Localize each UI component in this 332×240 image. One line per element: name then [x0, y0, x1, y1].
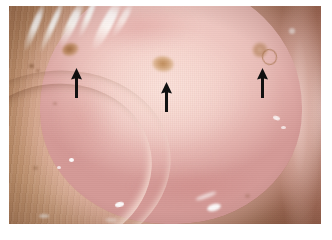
tissue-freckle [29, 64, 34, 68]
tissue-freckle [245, 194, 250, 198]
tissue-freckle [36, 69, 40, 72]
arrow-up-icon [256, 68, 269, 98]
right-arrow-annotation [256, 68, 269, 98]
specular-speck [39, 214, 49, 218]
figure-root [0, 0, 332, 240]
specular-speck [57, 166, 61, 169]
left-arrow-annotation [70, 68, 83, 98]
clinical-photograph [9, 6, 321, 224]
center-arrow-annotation [160, 82, 173, 112]
arrow-up-icon [70, 68, 83, 98]
tissue-freckle [33, 166, 38, 170]
specular-speck [289, 28, 295, 34]
specular-speck [281, 126, 286, 129]
tissue-freckle [53, 102, 57, 105]
arrow-up-icon [160, 82, 173, 112]
specular-speck [105, 218, 117, 222]
specular-speck [69, 158, 74, 162]
